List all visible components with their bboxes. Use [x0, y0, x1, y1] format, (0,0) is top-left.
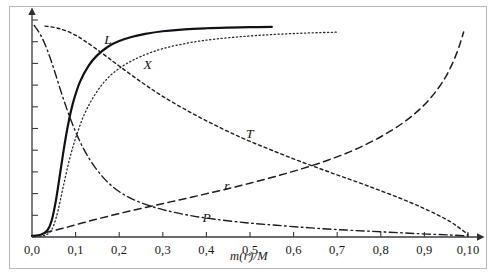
curve-label-L: L — [104, 32, 112, 48]
curve-label-r: r — [224, 178, 229, 194]
curve-r — [45, 32, 464, 233]
curve-label-P: P — [202, 210, 210, 226]
stellar-structure-figure: 0,00,10,20,30,40,50,60,70,80,90,10 LXTrP… — [0, 0, 498, 277]
curve-label-X: X — [144, 57, 152, 73]
x-axis-title: m(r)/M — [0, 249, 498, 264]
curve-label-T: T — [246, 126, 254, 142]
axes — [32, 14, 478, 237]
curve-T — [45, 26, 468, 234]
curve-X — [32, 32, 337, 236]
